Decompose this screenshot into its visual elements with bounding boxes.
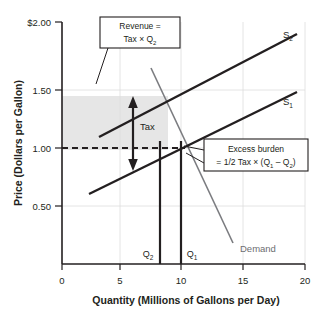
excess-burden-line1: Excess burden (228, 144, 284, 154)
ytick-label-200: $2.00 (27, 17, 51, 28)
q1-marker-label-text: Q (187, 249, 194, 259)
curve-label-demand: Demand (240, 243, 276, 254)
svg-text:Tax × Q2: Tax × Q2 (124, 34, 158, 46)
xtick-label-10: 10 (176, 275, 187, 286)
tax-incidence-chart: $2.00 1.50 1.00 0.50 0 5 10 15 20 Price … (0, 0, 335, 315)
y-axis-title: Price (Dollars per Gallon) (12, 80, 24, 206)
revenue-callout-line2: Tax × Q2 (124, 34, 158, 46)
xtick-label-0: 0 (59, 275, 64, 286)
xtick-label-5: 5 (117, 275, 122, 286)
q2-marker-label-sub: 2 (150, 254, 154, 261)
revenue-callout-line1: Revenue = (119, 21, 160, 31)
xtick-label-15: 15 (238, 275, 249, 286)
revenue-callout-line2-text: Tax × Q (124, 34, 154, 44)
chart-svg: $2.00 1.50 1.00 0.50 0 5 10 15 20 Price … (0, 0, 335, 315)
ytick-label-100: 1.00 (33, 143, 52, 154)
q1-marker-label-sub: 1 (194, 254, 198, 261)
curve-label-s2-sub: 2 (289, 35, 293, 42)
excess-burden-line2-end: ) (293, 157, 296, 167)
curve-label-s1-sub: 1 (289, 102, 293, 109)
q2-marker-label-text: Q (143, 249, 150, 259)
ytick-label-150: 1.50 (33, 85, 52, 96)
x-axis-title: Quantity (Millions of Gallons per Day) (92, 294, 279, 306)
ytick-label-050: 0.50 (33, 201, 52, 212)
xtick-label-20: 20 (300, 275, 311, 286)
excess-burden-line2-a: = 1/2 Tax × (Q (216, 157, 270, 167)
excess-burden-line2-mid: – Q (273, 157, 289, 167)
tax-label: Tax (140, 121, 155, 132)
excess-burden-line2: = 1/2 Tax × (Q1 – Q2) (216, 157, 295, 169)
